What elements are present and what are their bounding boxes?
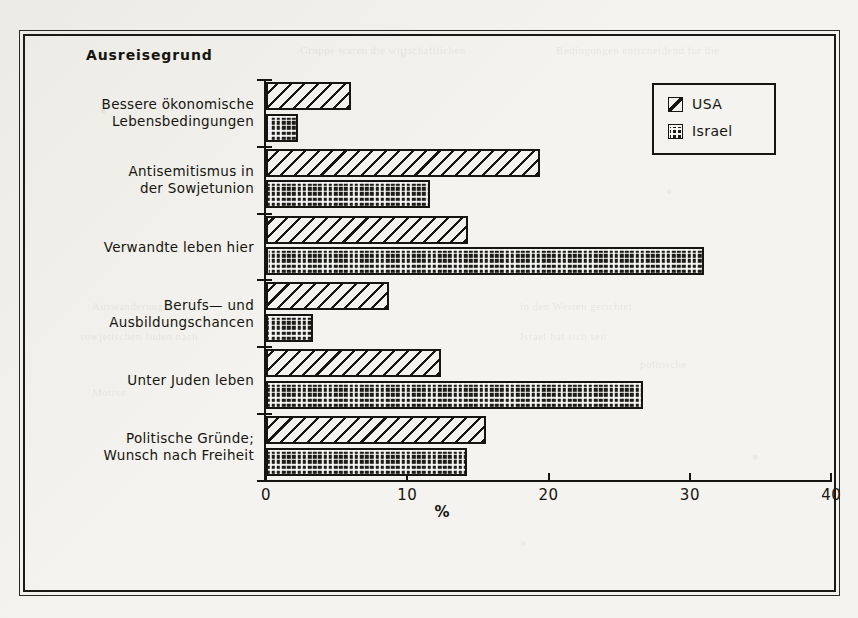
legend-item-usa: USA <box>668 96 722 112</box>
legend-swatch-israel <box>668 124 683 139</box>
legend-label-israel: Israel <box>692 123 733 139</box>
figure-page: Gruppe waren die wirtschaftlichenBedingu… <box>0 0 858 618</box>
legend-label-usa: USA <box>692 96 722 112</box>
chart-legend: USA Israel <box>652 83 776 155</box>
legend-swatch-usa <box>668 97 683 112</box>
legend-item-israel: Israel <box>668 123 733 139</box>
chart-title: Ausreisegrund <box>86 47 213 63</box>
